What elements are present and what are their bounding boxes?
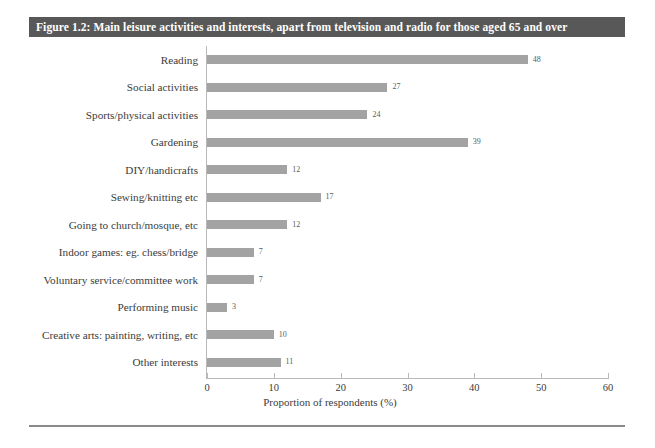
bar bbox=[207, 138, 468, 147]
x-axis-tick-label: 60 bbox=[588, 382, 628, 393]
bar-value-label: 7 bbox=[259, 248, 263, 256]
bar bbox=[207, 275, 254, 284]
bar bbox=[207, 248, 254, 257]
bar-value-label: 17 bbox=[326, 193, 334, 201]
bar-row: Social activities27 bbox=[0, 74, 655, 102]
bar-row: Reading48 bbox=[0, 46, 655, 74]
bar-value-label: 39 bbox=[473, 138, 481, 146]
figure-title-bar: Figure 1.2: Main leisure activities and … bbox=[29, 17, 625, 37]
bar-value-label: 3 bbox=[232, 303, 236, 311]
category-label: Voluntary service/committee work bbox=[0, 266, 198, 294]
bar-with-value: 12 bbox=[207, 156, 300, 184]
x-axis-tick bbox=[341, 373, 342, 379]
bar-row: Sewing/knitting etc17 bbox=[0, 184, 655, 212]
bar-with-value: 3 bbox=[207, 294, 236, 322]
bar bbox=[207, 358, 281, 367]
bar-value-label: 24 bbox=[372, 111, 380, 119]
category-label: Going to church/mosque, etc bbox=[0, 211, 198, 239]
bar-value-label: 11 bbox=[286, 358, 294, 366]
x-axis-title: Proportion of respondents (%) bbox=[0, 396, 655, 408]
bar-value-label: 12 bbox=[292, 166, 300, 174]
bar-with-value: 24 bbox=[207, 101, 380, 129]
bar-row: Performing music3 bbox=[0, 294, 655, 322]
category-label: Creative arts: painting, writing, etc bbox=[0, 321, 198, 349]
category-label: Social activities bbox=[0, 74, 198, 102]
bar bbox=[207, 193, 321, 202]
bar bbox=[207, 303, 227, 312]
category-label: Other interests bbox=[0, 349, 198, 377]
bottom-divider bbox=[29, 425, 625, 427]
bar-with-value: 39 bbox=[207, 129, 481, 157]
bar bbox=[207, 330, 274, 339]
bar-value-label: 27 bbox=[392, 83, 400, 91]
x-axis-tick-label: 20 bbox=[321, 382, 361, 393]
category-label: Reading bbox=[0, 46, 198, 74]
bar bbox=[207, 165, 287, 174]
bar-with-value: 48 bbox=[207, 46, 541, 74]
x-axis-tick bbox=[207, 373, 208, 379]
bar-row: Going to church/mosque, etc12 bbox=[0, 211, 655, 239]
x-axis-tick bbox=[274, 373, 275, 379]
bar bbox=[207, 83, 387, 92]
bar bbox=[207, 110, 367, 119]
bar-value-label: 7 bbox=[259, 276, 263, 284]
bar-with-value: 12 bbox=[207, 211, 300, 239]
figure-container: Figure 1.2: Main leisure activities and … bbox=[0, 0, 655, 448]
bar-row: Other interests11 bbox=[0, 349, 655, 377]
x-axis-tick-label: 10 bbox=[254, 382, 294, 393]
x-axis-tick bbox=[608, 373, 609, 379]
x-axis-tick bbox=[541, 373, 542, 379]
bar-with-value: 7 bbox=[207, 239, 263, 267]
x-axis-tick bbox=[474, 373, 475, 379]
category-label: Sports/physical activities bbox=[0, 101, 198, 129]
bar-row: Voluntary service/committee work7 bbox=[0, 266, 655, 294]
bar-row: DIY/handicrafts12 bbox=[0, 156, 655, 184]
bar-with-value: 10 bbox=[207, 321, 287, 349]
bar-value-label: 10 bbox=[279, 331, 287, 339]
bar-with-value: 27 bbox=[207, 74, 400, 102]
category-label: DIY/handicrafts bbox=[0, 156, 198, 184]
bar-row: Sports/physical activities24 bbox=[0, 101, 655, 129]
chart-plot-area: Reading48Social activities27Sports/physi… bbox=[0, 44, 655, 389]
category-label: Performing music bbox=[0, 294, 198, 322]
bar-row: Creative arts: painting, writing, etc10 bbox=[0, 321, 655, 349]
bar-value-label: 12 bbox=[292, 221, 300, 229]
bar-row: Indoor games: eg. chess/bridge7 bbox=[0, 239, 655, 267]
category-label: Indoor games: eg. chess/bridge bbox=[0, 239, 198, 267]
x-axis-title-text: Proportion of respondents (%) bbox=[263, 396, 397, 408]
category-label: Gardening bbox=[0, 129, 198, 157]
bar-row: Gardening39 bbox=[0, 129, 655, 157]
category-label: Sewing/knitting etc bbox=[0, 184, 198, 212]
bar bbox=[207, 55, 528, 64]
x-axis-tick-label: 50 bbox=[521, 382, 561, 393]
page-title: Figure 1.2: Main leisure activities and … bbox=[36, 21, 567, 33]
bar-with-value: 17 bbox=[207, 184, 334, 212]
x-axis-tick-label: 0 bbox=[187, 382, 227, 393]
bar-value-label: 48 bbox=[533, 56, 541, 64]
x-axis-tick-label: 30 bbox=[388, 382, 428, 393]
bar bbox=[207, 220, 287, 229]
bar-with-value: 11 bbox=[207, 349, 293, 377]
bar-with-value: 7 bbox=[207, 266, 263, 294]
x-axis-tick-label: 40 bbox=[454, 382, 494, 393]
x-axis-tick bbox=[408, 373, 409, 379]
